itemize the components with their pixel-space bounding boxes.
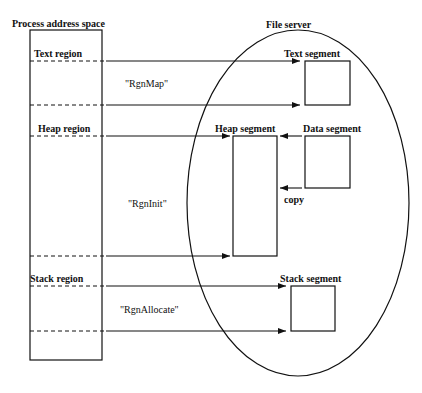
process-address-space-title: Process address space	[12, 19, 105, 29]
data-segment-box	[305, 136, 350, 188]
stack-segment-label: Stack segment	[280, 274, 341, 284]
region-boundaries	[30, 61, 105, 331]
stack-segment-box	[291, 286, 335, 331]
file-server-title: File server	[266, 20, 311, 30]
heap-segment-label: Heap segment	[215, 124, 275, 134]
heap-region-label: Heap region	[38, 124, 90, 134]
data-segment-label: Data segment	[303, 124, 361, 134]
heap-segment-box	[233, 136, 277, 256]
mapping-arrows	[106, 61, 302, 331]
process-address-space-box	[30, 30, 102, 360]
text-segment-box	[305, 61, 350, 105]
rgninit-call-label: "RgnInit"	[128, 199, 167, 209]
stack-region-label: Stack region	[30, 274, 83, 284]
rgnmap-call-label: "RgnMap"	[125, 79, 168, 89]
rgnallocate-call-label: "RgnAllocate"	[120, 305, 179, 315]
text-segment-label: Text segment	[284, 49, 340, 59]
text-region-label: Text region	[34, 49, 82, 59]
copy-label: copy	[284, 195, 304, 205]
